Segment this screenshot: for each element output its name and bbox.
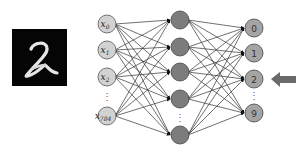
hidden-node	[171, 38, 189, 56]
hidden-output-connections	[188, 20, 244, 135]
neural-network-diagram: x0x1x2x784 0129 ⋮ ⋮ ⋮	[0, 0, 304, 150]
output-node-label: 0	[251, 24, 257, 34]
hidden-node	[171, 63, 189, 81]
connection-edge	[188, 20, 244, 113]
prediction-arrow-icon	[271, 72, 296, 87]
output-node-2: 2	[245, 70, 263, 88]
connection-edge	[188, 20, 244, 28]
output-node-label: 1	[251, 49, 257, 59]
connection-edge	[115, 72, 170, 116]
input-ellipsis: ⋮	[102, 91, 112, 102]
connection-edge	[115, 50, 170, 135]
connection-edge	[188, 28, 244, 99]
input-layer: x0x1x2x784	[95, 15, 116, 125]
connection-edge	[188, 47, 244, 113]
hidden-node	[171, 90, 189, 108]
hidden-ellipsis: ⋮	[175, 112, 185, 123]
connection-edge	[115, 20, 170, 24]
input-node-x1: x1	[98, 41, 116, 59]
output-node-label: 9	[251, 109, 257, 119]
connection-edge	[188, 20, 244, 79]
output-node-1: 1	[245, 44, 263, 62]
hidden-layer	[171, 11, 189, 144]
input-node-x784: x784	[95, 107, 116, 125]
input-node-x0: x0	[98, 15, 116, 33]
connection-edge	[188, 53, 244, 72]
input-node-x2: x2	[98, 68, 116, 86]
hidden-node	[171, 126, 189, 144]
output-node-0: 0	[245, 19, 263, 37]
connection-edge	[188, 113, 244, 135]
input-hidden-connections	[115, 20, 170, 135]
output-node-9: 9	[245, 104, 263, 122]
output-ellipsis: ⋮	[249, 90, 259, 101]
hidden-node	[171, 11, 189, 29]
connection-edge	[188, 99, 244, 113]
output-node-label: 2	[251, 75, 257, 85]
connection-edge	[115, 24, 170, 135]
output-layer: 0129	[245, 19, 263, 122]
